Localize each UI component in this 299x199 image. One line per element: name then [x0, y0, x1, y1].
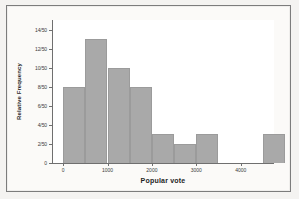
histogram-bar [130, 87, 152, 163]
histogram-bar [63, 87, 85, 163]
y-axis-title: Relative Frequency [14, 20, 24, 163]
plot-area [52, 20, 274, 163]
y-axis-line [52, 20, 53, 163]
histogram-bar [174, 144, 196, 163]
x-axis-line [52, 163, 274, 164]
histogram-screenshot: 02/504/506/508/5010/5012/5014/5001000200… [0, 0, 299, 199]
histogram-bar [263, 134, 285, 163]
histogram-bar [152, 134, 174, 163]
histogram-bar [85, 39, 107, 163]
x-axis-title: Popular vote [52, 177, 274, 184]
histogram-bar [196, 134, 218, 163]
histogram-bar [108, 68, 130, 163]
